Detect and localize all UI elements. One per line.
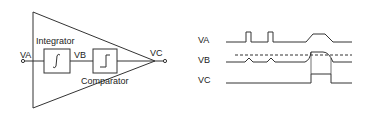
step-icon [100, 55, 110, 67]
waveform-vc [226, 74, 352, 83]
signal-label-vc: VC [198, 75, 211, 85]
timing-diagram [226, 32, 352, 83]
block-diagram [21, 12, 166, 108]
waveform-va [226, 32, 352, 42]
signal-label-va: VA [198, 35, 209, 45]
output-terminal [163, 59, 166, 62]
diagram-canvas: Integrator VA VB VC Comparator VA VB VC [0, 0, 371, 115]
input-label: VA [20, 50, 31, 60]
integrator-label: Integrator [36, 36, 75, 46]
waveform-vb [226, 52, 352, 62]
output-label: VC [150, 48, 163, 58]
comparator-block [93, 49, 117, 73]
signal-label-vb: VB [198, 55, 210, 65]
integral-icon [53, 54, 60, 68]
comparator-label: Comparator [81, 76, 129, 86]
mid-label: VB [74, 50, 86, 60]
amplifier-triangle [33, 12, 155, 108]
